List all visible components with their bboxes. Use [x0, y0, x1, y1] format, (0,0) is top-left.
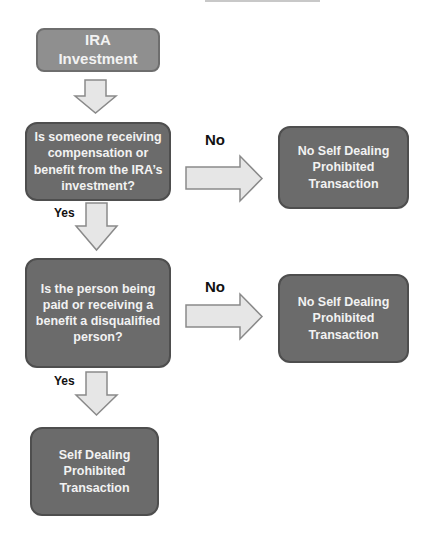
- decision-2-text: Is the person being paid or receiving a …: [36, 281, 160, 346]
- outcome-node-no-self-dealing-2: No Self Dealing Prohibited Transaction: [278, 274, 409, 363]
- down-arrow-icon: [74, 79, 118, 115]
- branch-label-yes-2: Yes: [54, 374, 75, 388]
- outcome-no-2-text: No Self Dealing Prohibited Transaction: [298, 294, 390, 343]
- outcome-node-self-dealing: Self Dealing Prohibited Transaction: [30, 427, 159, 516]
- down-arrow-icon: [75, 202, 119, 252]
- down-arrow-icon: [75, 371, 119, 417]
- outcome-no-1-text: No Self Dealing Prohibited Transaction: [298, 143, 390, 192]
- outcome-yes-text: Self Dealing Prohibited Transaction: [59, 447, 131, 496]
- right-arrow-icon: [185, 155, 265, 203]
- start-node-text: IRA Investment: [58, 31, 137, 69]
- outcome-node-no-self-dealing-1: No Self Dealing Prohibited Transaction: [278, 126, 409, 209]
- top-rule: [205, 0, 320, 2]
- decision-node-compensation: Is someone receiving compensation or ben…: [25, 122, 171, 201]
- decision-1-text: Is someone receiving compensation or ben…: [34, 129, 163, 194]
- branch-label-yes-1: Yes: [54, 206, 75, 220]
- branch-label-no-1: No: [205, 131, 225, 148]
- decision-node-disqualified-person: Is the person being paid or receiving a …: [25, 258, 171, 368]
- start-node-ira-investment: IRA Investment: [36, 28, 160, 72]
- right-arrow-icon: [185, 293, 265, 341]
